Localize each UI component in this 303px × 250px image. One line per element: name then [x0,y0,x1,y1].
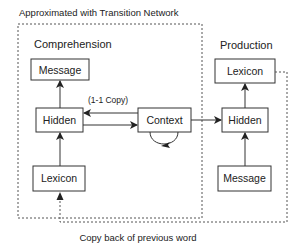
context-label: Context [146,114,182,126]
copy-back-caption: Copy back of previous word [79,232,196,243]
prod-message-node: Message [218,166,271,191]
comprehension-label: Comprehension [34,38,112,50]
self-loop-arrowhead-icon [161,142,170,148]
diagram-title: Approximated with Transition Network [19,7,179,18]
comp-message-node: Message [31,59,89,80]
comp-lexicon-node: Lexicon [33,166,85,191]
comp-hidden-label: Hidden [43,114,76,126]
copy-back-arrowhead-icon [57,192,64,200]
prod-message-label: Message [223,172,266,184]
diagram-canvas: Approximated with Transition Network Com… [0,0,303,250]
comp-lexicon-label: Lexicon [41,172,77,184]
prod-lexicon-node: Lexicon [215,59,275,83]
context-self-loop [150,132,178,144]
comp-hidden-node: Hidden [36,108,83,132]
production-label: Production [220,39,273,51]
prod-hidden-node: Hidden [222,108,268,132]
context-node: Context [138,108,191,132]
comp-message-label: Message [39,64,82,76]
prod-hidden-label: Hidden [228,114,261,126]
prod-lexicon-label: Lexicon [227,65,263,77]
copy-label: (1-1 Copy) [88,95,128,105]
